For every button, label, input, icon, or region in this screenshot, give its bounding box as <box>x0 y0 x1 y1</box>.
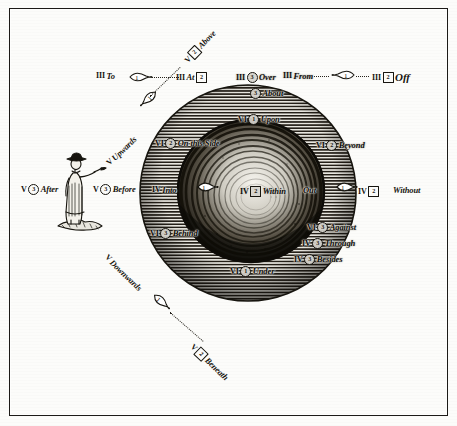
label-against-mark: 3 <box>317 222 328 233</box>
label-into-word: Into <box>162 186 176 195</box>
label-at-word: At <box>187 73 195 82</box>
label-under[interactable]: VI 1 Under <box>230 266 274 277</box>
label-off-word: Off <box>395 72 410 83</box>
label-against[interactable]: VI 3 Against <box>307 222 356 233</box>
label-beyond[interactable]: VI 2 Beyond <box>316 140 365 151</box>
label-besides[interactable]: IV 3 Besides <box>294 254 342 265</box>
label-without-numeral: IV <box>358 188 367 196</box>
label-upon-mark: 1 <box>248 114 259 125</box>
label-about-mark: 3 <box>250 88 261 99</box>
label-from-word: From <box>294 72 313 81</box>
label-under-word: Under <box>253 267 275 276</box>
label-on-this-side-word: On this Side <box>178 139 220 148</box>
pointer-to-number: 1 <box>135 74 139 82</box>
label-upon-word: Upon <box>261 115 280 124</box>
label-into-numeral: IV <box>152 186 161 194</box>
label-over-numeral: III <box>236 74 245 82</box>
label-besides-mark: 3 <box>304 254 315 265</box>
pointer-into: 1 <box>196 180 220 194</box>
pointer-into-number: 1 <box>202 184 206 192</box>
label-to-numeral: III <box>96 72 105 80</box>
label-under-numeral: VI <box>230 268 239 276</box>
label-after[interactable]: V 3 After <box>21 184 58 195</box>
label-to[interactable]: III To <box>96 72 115 81</box>
label-without-numeral-group[interactable]: IV 2 <box>358 186 379 197</box>
label-beyond-mark: 2 <box>326 140 337 151</box>
label-within[interactable]: IV 2 Within <box>240 186 286 197</box>
label-over[interactable]: III 3 Over <box>236 72 276 83</box>
label-upon-numeral: VI <box>238 116 247 124</box>
label-to-word: To <box>107 72 115 81</box>
label-over-word: Over <box>259 73 276 82</box>
label-about-word: About <box>263 89 284 98</box>
engraving-plate: 1 1 1 1 1 1 III To III At 2 III 2 O <box>0 0 457 426</box>
label-on-this-side[interactable]: VI 2 On this Side <box>155 138 220 149</box>
label-on-this-side-numeral: VI <box>155 140 164 148</box>
pointer-off-number: 1 <box>344 72 348 80</box>
label-through-numeral: IV <box>302 240 311 248</box>
label-besides-numeral: IV <box>294 256 303 264</box>
label-behind-word: Behind <box>173 229 198 238</box>
label-from[interactable]: III From <box>283 72 313 81</box>
label-beyond-word: Beyond <box>339 141 365 150</box>
label-behind-numeral: VI <box>150 230 159 238</box>
label-at-mark: 2 <box>196 72 207 83</box>
label-into[interactable]: IV Into <box>152 186 176 195</box>
label-within-mark: 2 <box>250 186 261 197</box>
label-at-numeral: III <box>176 74 185 82</box>
label-before-word: Before <box>113 185 136 194</box>
label-after-mark: 3 <box>28 184 39 195</box>
label-out[interactable]: Out <box>303 186 316 195</box>
label-behind-mark: 3 <box>160 228 171 239</box>
label-against-numeral: VI <box>307 224 316 232</box>
label-without-mark: 2 <box>368 186 379 197</box>
pointer-to: 1 <box>128 70 154 84</box>
pointer-out-number: 1 <box>341 184 345 192</box>
label-under-mark: 1 <box>240 266 251 277</box>
label-through-word: Through <box>325 239 355 248</box>
label-besides-word: Besides <box>317 255 343 264</box>
label-upon[interactable]: VI 1 Upon <box>238 114 280 125</box>
label-without[interactable]: Without <box>393 186 420 195</box>
leader-to-at <box>152 77 179 78</box>
label-at[interactable]: III At 2 <box>176 72 207 83</box>
label-against-word: Against <box>330 223 356 232</box>
pointer-out: 1 <box>335 180 359 194</box>
label-behind[interactable]: VI 3 Behind <box>150 228 198 239</box>
label-without-word: Without <box>393 186 420 195</box>
label-within-word: Within <box>263 187 286 196</box>
label-from-numeral: III <box>283 72 292 80</box>
label-within-numeral: IV <box>240 188 249 196</box>
label-through[interactable]: IV 3 Through <box>302 238 355 249</box>
leader-off-tail <box>356 76 369 77</box>
label-off[interactable]: III 2 Off <box>372 72 410 83</box>
label-out-word: Out <box>303 186 316 195</box>
pointer-off: 1 <box>330 68 356 82</box>
label-over-mark: 3 <box>247 72 258 83</box>
label-after-numeral: V <box>21 186 27 194</box>
label-off-mark: 2 <box>383 72 394 83</box>
label-about[interactable]: 3 About <box>250 88 283 99</box>
label-beyond-numeral: VI <box>316 142 325 150</box>
standing-figure <box>55 146 109 232</box>
label-through-mark: 3 <box>312 238 323 249</box>
label-off-numeral: III <box>372 74 381 82</box>
label-on-this-side-mark: 2 <box>165 138 176 149</box>
